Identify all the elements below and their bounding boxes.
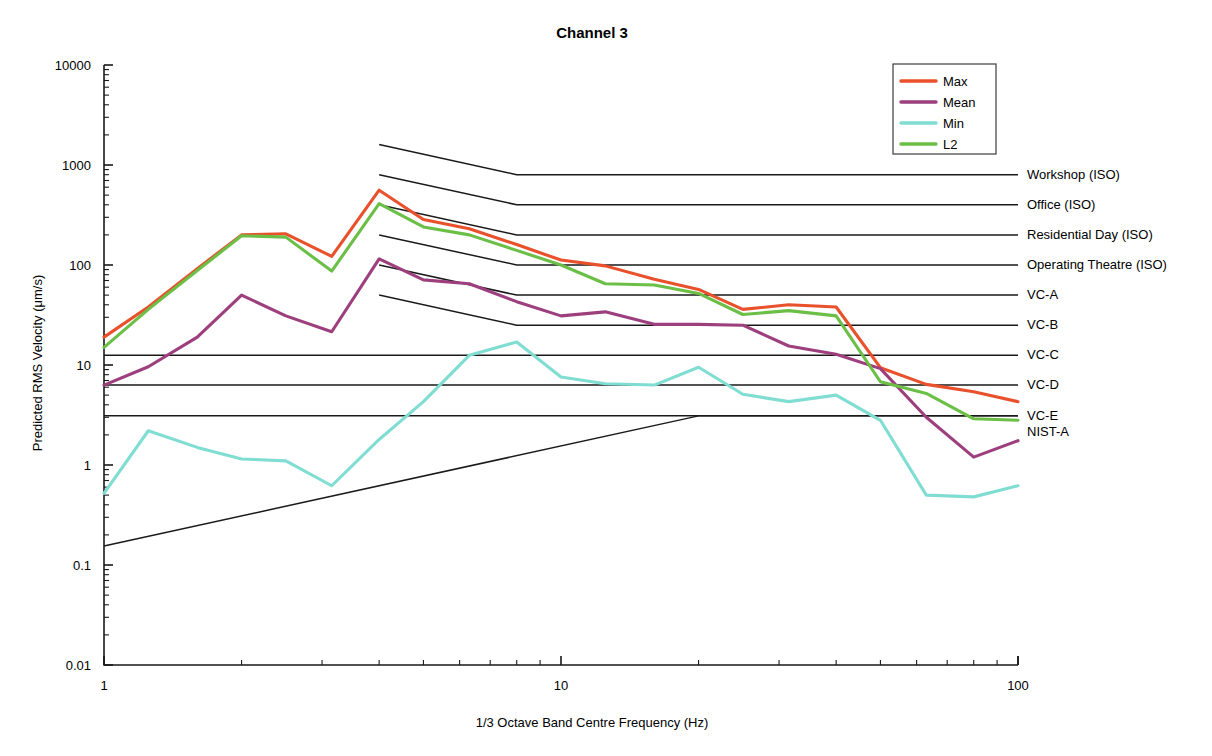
criterion-label: Operating Theatre (ISO) [1027, 257, 1167, 272]
x-tick-label: 100 [1007, 678, 1029, 693]
criterion-label: Workshop (ISO) [1027, 167, 1120, 182]
criterion-label: VC-C [1027, 347, 1059, 362]
criterion-label: NIST-A [1027, 424, 1069, 439]
y-tick-label: 1000 [62, 158, 91, 173]
x-axis-label: 1/3 Octave Band Centre Frequency (Hz) [476, 715, 709, 730]
criterion-label: VC-E [1027, 408, 1058, 423]
y-axis-label: Predicted RMS Velocity (μm/s) [30, 275, 45, 452]
y-tick-label: 10 [77, 358, 91, 373]
chart-page: Channel 3 0.010.1110100100010000 110100 … [0, 0, 1212, 756]
legend-label-l2: L2 [943, 137, 957, 152]
y-tick-label: 100 [69, 258, 91, 273]
y-tick-label: 10000 [55, 58, 91, 73]
y-tick-label: 0.01 [66, 658, 91, 673]
y-tick-label: 1 [84, 458, 91, 473]
chart-title: Channel 3 [556, 24, 628, 41]
legend-label-max: Max [943, 74, 968, 89]
velocity-criteria-chart: Channel 3 0.010.1110100100010000 110100 … [0, 0, 1212, 756]
criterion-label: VC-B [1027, 317, 1058, 332]
criterion-label: VC-A [1027, 287, 1058, 302]
y-tick-label: 0.1 [73, 558, 91, 573]
x-tick-label: 1 [100, 678, 107, 693]
criterion-label: Residential Day (ISO) [1027, 227, 1153, 242]
criterion-label: Office (ISO) [1027, 197, 1095, 212]
legend-label-mean: Mean [943, 95, 976, 110]
x-tick-label: 10 [554, 678, 568, 693]
chart-legend[interactable]: MaxMeanMinL2 [893, 64, 996, 154]
legend-label-min: Min [943, 116, 964, 131]
criterion-label: VC-D [1027, 377, 1059, 392]
